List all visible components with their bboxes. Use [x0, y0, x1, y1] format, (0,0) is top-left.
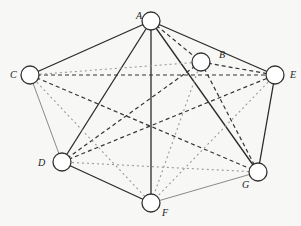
- node-circle: [21, 66, 39, 84]
- edge-c-d: [30, 75, 62, 162]
- edge-b-g: [201, 62, 258, 172]
- graph-diagram: ABCDEFG: [0, 0, 301, 226]
- node-circle: [249, 163, 267, 181]
- node-label: C: [10, 69, 17, 80]
- edge-a-d: [62, 21, 151, 162]
- node-circle: [266, 66, 284, 84]
- edge-b-d: [62, 62, 201, 162]
- edge-d-e: [62, 75, 275, 162]
- edge-c-f: [30, 75, 151, 203]
- node-label: D: [37, 157, 46, 168]
- node-c: C: [10, 66, 39, 84]
- nodes-layer: ABCDEFG: [10, 10, 296, 218]
- node-circle: [142, 12, 160, 30]
- node-label: G: [242, 179, 249, 190]
- node-label: A: [135, 10, 143, 21]
- node-d: D: [37, 153, 71, 171]
- node-f: F: [142, 194, 169, 218]
- edge-a-c: [30, 21, 151, 75]
- node-circle: [53, 153, 71, 171]
- node-circle: [142, 194, 160, 212]
- node-label: E: [289, 69, 296, 80]
- edge-e-f: [151, 75, 275, 203]
- edge-b-f: [151, 62, 201, 203]
- node-e: E: [266, 66, 296, 84]
- edge-d-g: [62, 162, 258, 172]
- node-b: B: [192, 49, 225, 71]
- node-label: B: [219, 49, 225, 60]
- node-label: F: [161, 207, 169, 218]
- edge-d-f: [62, 162, 151, 203]
- edges-layer: [30, 21, 275, 203]
- edge-b-e: [201, 62, 275, 75]
- node-circle: [192, 53, 210, 71]
